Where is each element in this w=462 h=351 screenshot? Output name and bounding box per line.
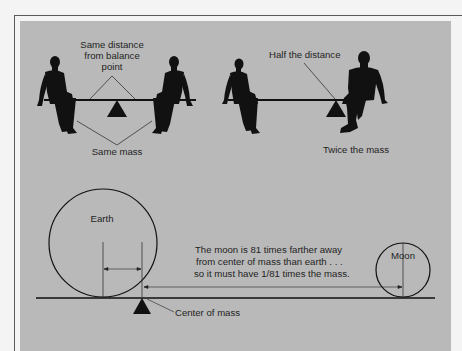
center-of-mass-label: Center of mass — [175, 307, 240, 318]
label-same-distance-2: from balance — [84, 50, 139, 61]
label-same-mass: Same mass — [92, 146, 143, 157]
explanation-line-3: so it must have 1/81 times the mass. — [194, 268, 350, 279]
explanation-line-1: The moon is 81 times farther away — [195, 244, 342, 255]
figure: Same distance from balance point Same ma… — [0, 0, 462, 351]
label-same-distance-3: point — [102, 61, 123, 72]
explanation-line-2: from center of mass than earth . . . — [196, 256, 343, 267]
label-twice-mass: Twice the mass — [323, 144, 389, 155]
gray-panel — [20, 21, 451, 351]
label-same-distance-1: Same distance — [80, 39, 143, 50]
label-half-distance: Half the distance — [269, 49, 340, 60]
moon-label: Moon — [391, 250, 415, 261]
earth-label: Earth — [91, 213, 114, 224]
